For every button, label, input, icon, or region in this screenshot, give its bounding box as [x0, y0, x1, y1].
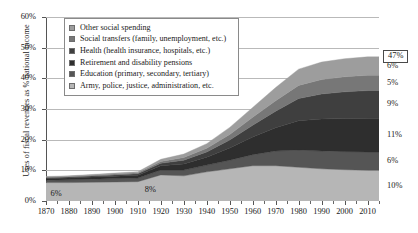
x-tick-minor: [172, 201, 173, 204]
x-tick-minor: [287, 201, 288, 204]
x-tick-minor: [57, 201, 58, 204]
chart-legend: Other social spendingSocial transfers (f…: [64, 18, 239, 96]
x-tick-mark: [69, 201, 70, 205]
inline-annotation: 8%: [145, 185, 156, 194]
x-tick-minor: [195, 201, 196, 204]
legend-swatch-icon: [69, 48, 75, 54]
x-tick-mark: [299, 201, 300, 205]
x-tick-mark: [46, 201, 47, 205]
legend-item-label: Health (health insurance, hospitals, etc…: [80, 47, 210, 55]
legend-item[interactable]: Army, police, justice, administration, e…: [69, 80, 234, 92]
y-tick-label: 60%: [2, 12, 36, 21]
x-tick-minor: [333, 201, 334, 204]
x-tick-mark: [230, 201, 231, 205]
series-end-label: 11%: [387, 130, 402, 139]
y-tick-mark: [42, 109, 46, 110]
x-tick-mark: [161, 201, 162, 205]
y-axis-title: Uses of fiscal revenues as % national in…: [22, 11, 31, 191]
legend-item[interactable]: Retirement and disability pensions: [69, 57, 234, 69]
y-tick-label: 20%: [2, 135, 36, 144]
legend-item[interactable]: Social transfers (family, unemployment, …: [69, 34, 234, 46]
y-tick-mark: [42, 48, 46, 49]
x-tick-minor: [264, 201, 265, 204]
y-tick-label: 50%: [2, 43, 36, 52]
x-tick-minor: [310, 201, 311, 204]
legend-item[interactable]: Other social spending: [69, 22, 234, 34]
legend-item-label: Retirement and disability pensions: [80, 59, 192, 67]
legend-swatch-icon: [69, 71, 75, 77]
y-tick-label: 0%: [2, 196, 36, 205]
y-tick-mark: [42, 170, 46, 171]
stacked-area-chart: Uses of fiscal revenues as % national in…: [0, 0, 418, 233]
x-tick-mark: [368, 201, 369, 205]
legend-item[interactable]: Education (primary, secondary, tertiary): [69, 68, 234, 80]
series-end-label: 10%: [387, 181, 402, 190]
x-tick-minor: [149, 201, 150, 204]
series-end-label: 9%: [387, 99, 398, 108]
legend-item-label: Other social spending: [80, 24, 151, 32]
legend-swatch-icon: [69, 25, 75, 31]
y-tick-mark: [42, 140, 46, 141]
x-tick-minor: [356, 201, 357, 204]
x-tick-mark: [207, 201, 208, 205]
x-tick-minor: [241, 201, 242, 204]
x-tick-minor: [103, 201, 104, 204]
legend-item-label: Army, police, justice, administration, e…: [80, 82, 214, 90]
x-tick-mark: [92, 201, 93, 205]
x-tick-minor: [379, 201, 380, 204]
x-tick-minor: [80, 201, 81, 204]
y-tick-mark: [42, 17, 46, 18]
x-tick-minor: [218, 201, 219, 204]
legend-swatch-icon: [69, 36, 75, 42]
x-tick-mark: [138, 201, 139, 205]
legend-item-label: Social transfers (family, unemployment, …: [80, 35, 226, 43]
x-tick-mark: [115, 201, 116, 205]
legend-item-label: Education (primary, secondary, tertiary): [80, 70, 209, 78]
y-tick-label: 10%: [2, 165, 36, 174]
legend-item[interactable]: Health (health insurance, hospitals, etc…: [69, 45, 234, 57]
total-value-badge: 47%: [383, 50, 408, 63]
x-tick-mark: [184, 201, 185, 205]
x-tick-mark: [322, 201, 323, 205]
series-end-label: 5%: [387, 78, 398, 87]
inline-annotation: 6%: [51, 189, 62, 198]
x-tick-mark: [276, 201, 277, 205]
x-tick-mark: [345, 201, 346, 205]
x-tick-minor: [126, 201, 127, 204]
y-tick-mark: [42, 78, 46, 79]
y-tick-label: 30%: [2, 104, 36, 113]
x-tick-label: 2010: [351, 207, 385, 216]
series-end-label: 6%: [387, 156, 398, 165]
x-tick-mark: [253, 201, 254, 205]
y-tick-label: 40%: [2, 73, 36, 82]
legend-swatch-icon: [69, 83, 75, 89]
legend-swatch-icon: [69, 60, 75, 66]
